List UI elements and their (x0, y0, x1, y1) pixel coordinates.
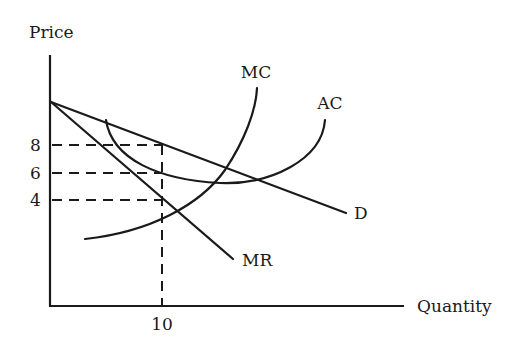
y-tick-6: 6 (30, 163, 41, 183)
x-axis-title: Quantity (417, 296, 492, 316)
y-tick-4: 4 (30, 190, 41, 210)
average-cost-label: AC (316, 93, 342, 113)
marginal-cost-label: MC (241, 62, 271, 82)
demand-curve-label: D (354, 203, 368, 223)
economics-diagram: Price Quantity 8 6 4 10 D MR MC AC (0, 0, 530, 350)
y-axis-title: Price (29, 22, 74, 42)
marginal-revenue-curve (51, 102, 233, 259)
marginal-revenue-label: MR (242, 250, 273, 270)
y-tick-8: 8 (30, 135, 41, 155)
marginal-cost-curve (85, 88, 257, 239)
x-tick-10: 10 (151, 314, 173, 334)
